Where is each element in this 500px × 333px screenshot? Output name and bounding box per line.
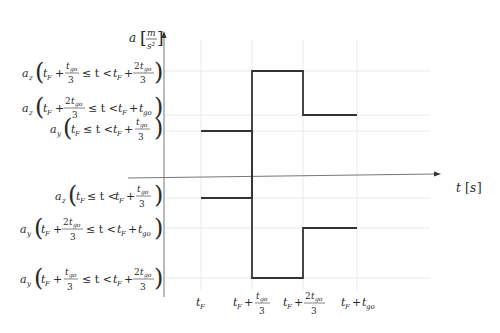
svg-text:a: a <box>129 31 136 45</box>
svg-text:a: a <box>20 273 27 286</box>
svg-text:go: go <box>144 65 152 73</box>
svg-text:+: + <box>53 273 62 286</box>
svg-text:+: + <box>244 296 253 309</box>
svg-text:3: 3 <box>311 306 317 316</box>
svg-text:F: F <box>46 74 53 82</box>
svg-text:a: a <box>50 123 57 136</box>
svg-text:F: F <box>121 109 128 117</box>
label-ay-last: ay ( tF + 2tgo 3 ≤ t < tF + tgo ) <box>20 214 163 242</box>
series-ay <box>201 131 357 278</box>
x-tick-tF-plus-tgo: tF + tgo <box>341 296 375 311</box>
svg-text:s²: s² <box>147 41 156 51</box>
svg-text:): ) <box>154 181 163 209</box>
svg-text:F: F <box>118 197 125 205</box>
svg-text:]: ] <box>477 181 482 195</box>
svg-text:go: go <box>69 271 77 279</box>
svg-text:≤ t <: ≤ t < <box>87 190 117 203</box>
svg-text:+: + <box>55 67 64 80</box>
svg-text:+: + <box>124 273 133 286</box>
svg-text:+: + <box>126 190 135 203</box>
svg-text:go: go <box>142 230 151 238</box>
svg-text:+: + <box>128 223 137 236</box>
svg-text:s: s <box>470 181 476 195</box>
svg-text:go: go <box>140 121 148 129</box>
label-az-mid: az ( tF + tgo 3 ≤ t < tF + 2tgo 3 ) <box>22 58 163 86</box>
svg-text:3: 3 <box>140 75 146 85</box>
svg-text:2: 2 <box>134 267 140 277</box>
label-az-first: az ( tF ≤ t < tF + tgo 3 ) <box>55 181 163 209</box>
svg-text:go: go <box>143 109 152 117</box>
svg-text:[: [ <box>465 181 470 195</box>
svg-text:F: F <box>44 280 51 288</box>
svg-text:3: 3 <box>140 282 146 292</box>
svg-text:go: go <box>70 65 78 73</box>
svg-text:go: go <box>315 295 323 303</box>
acceleration-step-diagram: a [ m s² ] t [ s ] az ( tF + tgo 3 ≤ t <… <box>0 0 500 333</box>
svg-text:F: F <box>236 303 243 311</box>
svg-text:a: a <box>55 190 62 203</box>
svg-text:3: 3 <box>138 132 144 142</box>
svg-text:go: go <box>73 221 81 229</box>
label-ay-first: ay ( tF ≤ t < tF + tgo 3 ) <box>50 114 163 142</box>
svg-text:3: 3 <box>72 110 78 120</box>
svg-text:z: z <box>61 197 66 205</box>
svg-text:2: 2 <box>305 291 311 301</box>
svg-text:go: go <box>141 188 149 196</box>
svg-text:+: + <box>53 223 62 236</box>
svg-text:): ) <box>154 264 163 292</box>
x-tick-tF-plus-tgo-3: tF + tgo 3 <box>233 291 270 316</box>
svg-text:): ) <box>154 58 163 86</box>
svg-text:go: go <box>366 303 375 311</box>
svg-text:a: a <box>22 102 29 115</box>
svg-text:≤ t <: ≤ t < <box>82 67 112 80</box>
series-az <box>201 71 357 198</box>
label-ay-mid: ay ( tF + tgo 3 ≤ t < tF + 2tgo 3 ) <box>20 264 163 292</box>
svg-text:F: F <box>79 197 86 205</box>
svg-text:y: y <box>56 130 62 138</box>
svg-text:t: t <box>456 181 461 195</box>
svg-text:m: m <box>147 28 156 38</box>
svg-text:y: y <box>26 280 32 288</box>
svg-text:): ) <box>154 114 163 142</box>
svg-text:go: go <box>144 271 152 279</box>
x-axis <box>128 174 435 178</box>
svg-text:3: 3 <box>139 199 145 209</box>
svg-text:a: a <box>22 67 29 80</box>
svg-text:3: 3 <box>67 282 73 292</box>
svg-text:z: z <box>28 74 33 82</box>
svg-text:F: F <box>199 303 206 311</box>
svg-text:2: 2 <box>65 96 71 106</box>
svg-text:2: 2 <box>134 61 140 71</box>
svg-text:≤ t <: ≤ t < <box>82 273 112 286</box>
svg-text:3: 3 <box>68 75 74 85</box>
svg-text:F: F <box>46 109 53 117</box>
x-tick-tF-plus-2tgo-3: tF + 2tgo 3 <box>283 291 325 316</box>
grid <box>164 40 430 290</box>
svg-text:[: [ <box>140 28 147 48</box>
svg-text:≤ t <: ≤ t < <box>88 102 118 115</box>
svg-text:]: ] <box>157 28 164 48</box>
svg-text:F: F <box>344 303 351 311</box>
x-axis-arrow-icon <box>434 172 441 177</box>
svg-text:y: y <box>26 230 32 238</box>
svg-text:+: + <box>294 296 303 309</box>
svg-text:+: + <box>352 296 361 309</box>
x-axis-title: t [ s ] <box>456 181 482 195</box>
svg-text:+: + <box>124 123 133 136</box>
svg-text:F: F <box>44 230 51 238</box>
svg-text:F: F <box>120 230 127 238</box>
svg-text:F: F <box>74 130 81 138</box>
svg-text:2: 2 <box>63 217 69 227</box>
svg-text:F: F <box>116 280 123 288</box>
svg-text:+: + <box>129 102 138 115</box>
svg-text:F: F <box>286 303 293 311</box>
svg-text:F: F <box>116 130 123 138</box>
svg-text:≤ t <: ≤ t < <box>86 223 116 236</box>
label-az-last: az ( tF + 2tgo 3 ≤ t < tF + tgo ) <box>22 93 163 121</box>
svg-text:): ) <box>154 214 163 242</box>
svg-text:F: F <box>116 74 123 82</box>
y-axis-title: a [ m s² ] <box>129 28 164 51</box>
svg-text:+: + <box>124 67 133 80</box>
svg-text:go: go <box>75 100 83 108</box>
svg-text:≤ t <: ≤ t < <box>83 123 113 136</box>
